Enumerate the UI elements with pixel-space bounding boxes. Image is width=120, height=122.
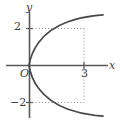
parabola-lower-branch [29, 66, 103, 117]
y-tick-label-negative-2: −2 [10, 97, 26, 108]
origin-label: O [20, 68, 29, 79]
y-axis-label: y [26, 2, 32, 13]
x-tick-label-3: 3 [81, 68, 88, 79]
parabola-upper-branch [29, 15, 103, 66]
parabola-figure: y x O 2 −2 3 [0, 0, 120, 122]
x-axis-label: x [109, 60, 115, 71]
y-tick-label-2: 2 [14, 21, 21, 32]
